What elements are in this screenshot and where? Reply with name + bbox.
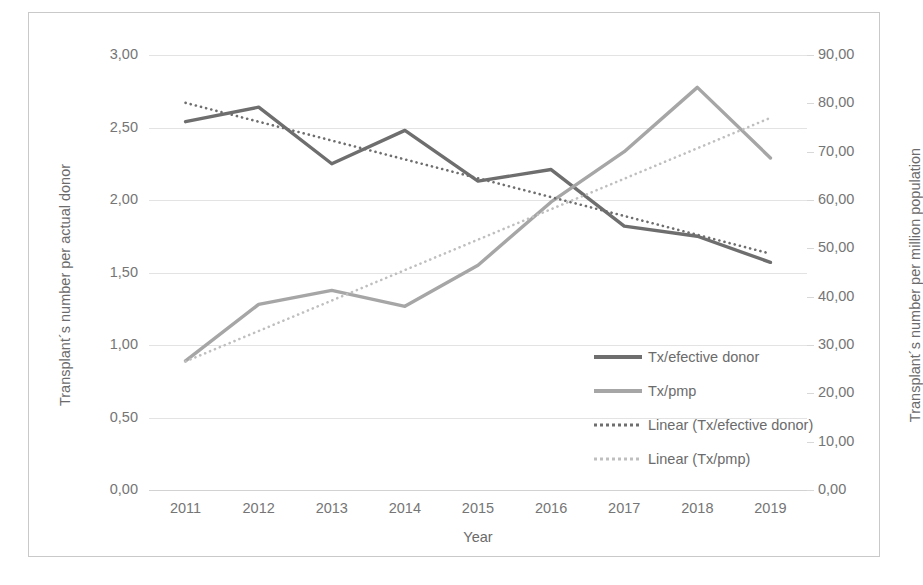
right-axis-tick-label: 50,00 — [818, 240, 854, 255]
x-axis-tick-label: 2015 — [462, 501, 494, 516]
legend-item-label: Tx/efective donor — [648, 349, 759, 365]
legend-item[interactable]: Tx/pmp — [594, 374, 844, 408]
legend-swatch-icon — [594, 452, 642, 466]
right-axis-title: Transplant´s number per million populati… — [907, 147, 923, 421]
legend-swatch-icon — [594, 350, 642, 364]
legend-item-label: Linear (Tx/pmp) — [648, 451, 750, 467]
left-axis-tick-label: 1,50 — [110, 265, 138, 280]
right-axis-tick-mark — [807, 200, 814, 201]
x-axis-tick-label: 2013 — [316, 501, 348, 516]
right-axis-tick-mark — [807, 297, 814, 298]
x-axis-tick-label: 2016 — [535, 501, 567, 516]
x-axis-tick-label: 2017 — [608, 501, 640, 516]
right-axis-tick-label: 90,00 — [818, 47, 854, 62]
right-axis-tick-mark — [807, 248, 814, 249]
right-axis-tick-mark — [807, 152, 814, 153]
right-axis-tick-mark — [807, 490, 814, 491]
x-axis-tick-label: 2019 — [754, 501, 786, 516]
series-line — [186, 103, 771, 254]
right-axis-tick-label: 80,00 — [818, 95, 854, 110]
legend-item[interactable]: Linear (Tx/efective donor) — [594, 408, 844, 442]
x-axis-tick-label: 2011 — [170, 501, 201, 516]
right-axis-tick-mark — [807, 103, 814, 104]
left-axis-tick-label: 0,50 — [110, 410, 138, 425]
left-axis-tick-label: 2,00 — [110, 192, 138, 207]
legend-item-label: Tx/pmp — [648, 383, 696, 399]
legend-swatch-icon — [594, 384, 642, 398]
series-line — [186, 118, 771, 362]
x-axis-tick-label: 2012 — [243, 501, 275, 516]
left-axis-tick-label: 2,50 — [110, 120, 138, 135]
right-axis-tick-label: 70,00 — [818, 144, 854, 159]
left-axis-tick-label: 0,00 — [110, 482, 138, 497]
chart-frame: Transplant´s number per actual donor Tra… — [28, 12, 880, 557]
x-axis-tick-label: 2014 — [389, 501, 421, 516]
left-axis-tick-label: 1,00 — [110, 337, 138, 352]
legend-item[interactable]: Tx/efective donor — [594, 340, 844, 374]
right-axis-tick-label: 40,00 — [818, 289, 854, 304]
x-axis-tick-label: 2018 — [681, 501, 713, 516]
chart-legend: Tx/efective donorTx/pmpLinear (Tx/efecti… — [594, 340, 844, 476]
legend-item[interactable]: Linear (Tx/pmp) — [594, 442, 844, 476]
right-axis-tick-label: 0,00 — [818, 482, 846, 497]
legend-swatch-icon — [594, 418, 642, 432]
left-axis-title: Transplant´s number per actual donor — [57, 163, 73, 405]
right-axis-tick-mark — [807, 55, 814, 56]
right-axis-tick-label: 60,00 — [818, 192, 854, 207]
left-axis-tick-label: 3,00 — [110, 47, 138, 62]
series-line — [186, 87, 771, 361]
x-axis-baseline — [149, 490, 807, 491]
legend-item-label: Linear (Tx/efective donor) — [648, 417, 813, 433]
x-axis-title: Year — [463, 529, 492, 545]
